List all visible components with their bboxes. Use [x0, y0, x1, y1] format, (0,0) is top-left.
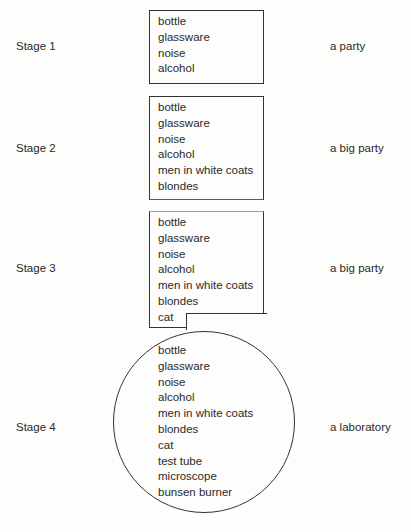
list-item: men in white coats [158, 406, 253, 422]
list-item: blondes [158, 179, 263, 195]
list-item: bunsen burner [158, 485, 253, 501]
stage-2-box: bottle glassware noise alcohol men in wh… [149, 96, 264, 200]
list-item: blondes [158, 422, 253, 438]
stage-2-interpretation: a big party [330, 142, 384, 154]
list-item: glassware [158, 359, 253, 375]
list-item: bottle [158, 14, 263, 30]
stage-3-box: bottle glassware noise alcohol men in wh… [149, 211, 264, 328]
list-item: noise [158, 46, 263, 62]
list-item: bottle [158, 100, 263, 116]
stage-1-box: bottle glassware noise alcohol [149, 10, 264, 84]
list-item: blondes [158, 294, 263, 310]
list-item: noise [158, 247, 263, 263]
list-item: alcohol [158, 390, 253, 406]
list-item: microscope [158, 469, 253, 485]
list-item: glassware [158, 116, 263, 132]
list-item: noise [158, 375, 253, 391]
list-item: men in white coats [158, 163, 263, 179]
stage-3-label: Stage 3 [16, 262, 56, 274]
list-item: bottle [158, 215, 263, 231]
stage-4-label: Stage 4 [16, 421, 56, 433]
list-item: men in white coats [158, 278, 263, 294]
stage-1-interpretation: a party [330, 40, 365, 52]
list-item: alcohol [158, 147, 263, 163]
list-item: test tube [158, 454, 253, 470]
stage-4-interpretation: a laboratory [330, 421, 391, 433]
list-item: alcohol [158, 61, 263, 77]
list-item: noise [158, 132, 263, 148]
list-item: glassware [158, 231, 263, 247]
list-item: alcohol [158, 262, 263, 278]
stage-4-items: bottle glassware noise alcohol men in wh… [158, 343, 253, 501]
list-item: glassware [158, 30, 263, 46]
stage-1-label: Stage 1 [16, 40, 56, 52]
list-item: cat [158, 438, 253, 454]
stage-3-interpretation: a big party [330, 262, 384, 274]
stage-3-notch [186, 313, 267, 330]
list-item: bottle [158, 343, 253, 359]
stage-2-label: Stage 2 [16, 142, 56, 154]
